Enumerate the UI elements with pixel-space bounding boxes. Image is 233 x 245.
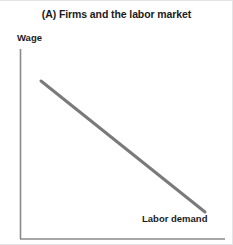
labor-demand-label: Labor demand: [142, 213, 207, 225]
labor-market-figure: (A) Firms and the labor market Wage Labo…: [0, 0, 233, 245]
labor-demand-curve: [41, 81, 205, 212]
plot-area: [0, 0, 233, 245]
